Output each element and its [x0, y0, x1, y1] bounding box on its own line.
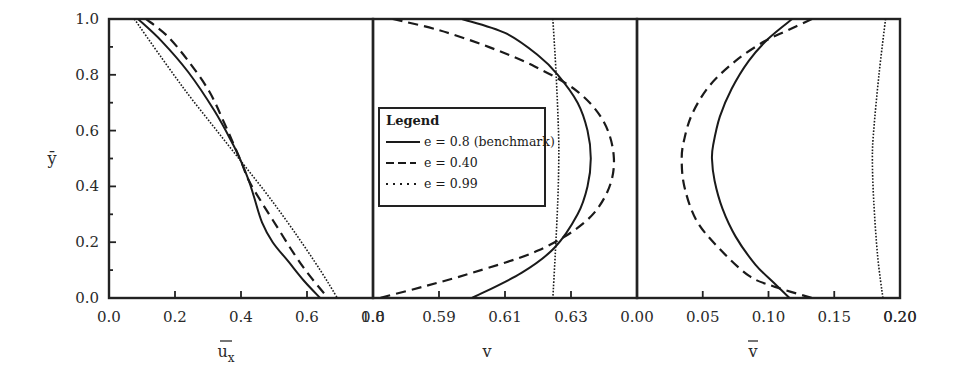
right-x-axis-label: v — [747, 341, 758, 361]
x-tick-label: 0.00 — [620, 308, 653, 326]
x-tick-label: 0.63 — [554, 308, 587, 326]
legend-title: Legend — [386, 113, 538, 128]
left-x-label-sub: x — [228, 351, 235, 365]
y-axis-label: ȳ — [46, 149, 56, 168]
y-axis-label-text: ȳ — [46, 149, 56, 168]
x-tick-label: 0.61 — [488, 308, 521, 326]
x-tick-label: 1.0 — [361, 308, 385, 326]
series-solid-line — [712, 19, 792, 298]
middle-x-axis-label: v — [481, 342, 491, 361]
legend-item-label: e = 0.40 — [424, 155, 478, 170]
y-tick-label: 0.2 — [75, 233, 99, 251]
series-dotted-line — [134, 19, 337, 298]
chart-figure: 0.00.20.40.60.81.00.00.20.40.60.81.00.59… — [0, 0, 960, 379]
x-tick-label: 0.6 — [295, 308, 319, 326]
solid-line-swatch-icon — [386, 137, 420, 147]
x-tick-label: 0.4 — [229, 308, 253, 326]
series-dotted-line — [872, 19, 885, 298]
y-tick-label: 0.8 — [75, 66, 99, 84]
panel-frame-2 — [637, 19, 900, 298]
panel-frame-0 — [109, 19, 373, 298]
y-tick-label: 1.0 — [75, 10, 99, 28]
right-x-label-text: v — [747, 342, 757, 361]
svg-text:ux: ux — [217, 342, 234, 365]
dashed-line-swatch-icon — [386, 158, 420, 168]
series-dotted-line — [553, 19, 559, 298]
y-tick-label: 0.0 — [75, 289, 99, 307]
series-solid-line — [138, 19, 320, 298]
left-x-axis-label: ux — [217, 341, 234, 365]
legend-item-label: e = 0.99 — [424, 176, 478, 191]
x-tick-label: 0.05 — [686, 308, 719, 326]
x-tick-label: 0.20 — [883, 308, 916, 326]
legend-item-dotted: e = 0.99 — [386, 173, 538, 194]
x-tick-label: 0.2 — [163, 308, 187, 326]
legend: Legend e = 0.8 (benchmark) e = 0.40 e = … — [378, 107, 546, 207]
dotted-line-swatch-icon — [386, 179, 420, 189]
series-dashed-line — [682, 19, 812, 298]
legend-item-label: e = 0.8 (benchmark) — [424, 134, 555, 149]
legend-item-solid: e = 0.8 (benchmark) — [386, 131, 538, 152]
x-tick-label: 0.59 — [422, 308, 455, 326]
x-tick-label: 0.15 — [818, 308, 851, 326]
x-tick-label: 0.0 — [97, 308, 121, 326]
x-tick-label: 0.10 — [752, 308, 785, 326]
left-x-label-main: u — [217, 342, 227, 361]
legend-item-dashed: e = 0.40 — [386, 152, 538, 173]
y-tick-label: 0.6 — [75, 122, 99, 140]
series-dashed-line — [146, 19, 328, 298]
y-tick-label: 0.4 — [75, 177, 99, 195]
